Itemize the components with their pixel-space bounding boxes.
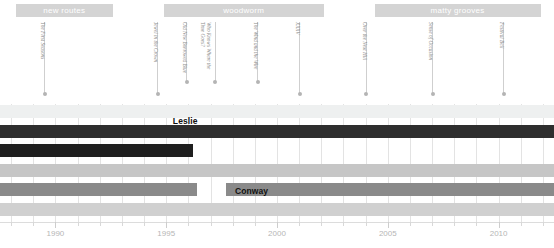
axis-tick-minor [366,222,367,226]
axis-tick-major [499,222,500,228]
annotation-label: Who Knows Where theTime Goes? [200,22,211,69]
annotation-dot [256,80,260,84]
annotation-label: Over the Next Hill [362,22,368,60]
axis-tick-minor [211,222,212,226]
axis-tick-major [55,222,56,228]
axis-tick-minor [543,222,544,226]
axis-tick-minor [233,222,234,226]
axis-tick-minor [432,222,433,226]
axis-tick-minor [343,222,344,226]
axis-tick-minor [33,222,34,226]
axis-year-label: 1990 [46,229,64,238]
timeline-bar[interactable] [0,144,193,157]
axis-tick-minor [255,222,256,226]
annotation-dot [431,92,435,96]
axis-tick-minor [410,222,411,226]
annotation-leader-line [215,22,216,82]
timeline-chart: new routeswoodwormmatty grooves The Firs… [0,0,554,248]
axis-tick-minor [299,222,300,226]
axis-tick-minor [122,222,123,226]
era-label: new routes [43,6,85,15]
annotation-label: The First Seasons [40,22,46,59]
axis-tick-minor [11,222,12,226]
annotation-label: Jewel in the Crown [153,22,159,62]
axis-tick-minor [188,222,189,226]
annotation-label: The Wind and the Wire [253,22,259,69]
axis-tick-minor [476,222,477,226]
timeline-bar-conway[interactable] [0,183,197,196]
axis-tick-major [388,222,389,228]
annotation-dot [156,92,160,96]
annotation-dot [213,80,217,84]
axis-year-label: 2000 [268,229,286,238]
annotation-label: Old New Borrowed Blue [182,22,188,73]
x-axis: 19901995200020052010 [0,222,554,248]
timeline-bar[interactable] [0,105,554,118]
axis-tick-minor [78,222,79,226]
bar-label: Conway [235,186,268,196]
annotation-label: Festival Bell [499,22,505,48]
axis-tick-major [166,222,167,228]
annotation-dot [364,92,368,96]
timeline-bar[interactable] [0,203,554,216]
annotation-dot [185,80,189,84]
axis-tick-minor [144,222,145,226]
era-bar[interactable]: new routes [16,4,114,17]
plot-area: LeslieConway [0,104,554,222]
era-bar[interactable]: woodworm [164,4,324,17]
timeline-bar-conway[interactable] [226,183,554,196]
timeline-bar[interactable] [0,164,554,177]
axis-tick-minor [321,222,322,226]
era-label: woodworm [223,6,264,15]
timeline-bar-leslie[interactable] [0,125,554,138]
axis-year-label: 1995 [157,229,175,238]
axis-year-label: 2010 [490,229,508,238]
axis-tick-minor [454,222,455,226]
bar-label: Leslie [173,116,198,126]
annotation-label: XXXV [295,22,301,35]
annotation-dot [43,92,47,96]
axis-tick-major [277,222,278,228]
axis-tick-minor [100,222,101,226]
annotation-dot [298,92,302,96]
era-label: matty grooves [431,6,485,15]
axis-tick-minor [521,222,522,226]
era-bar[interactable]: matty grooves [375,4,541,17]
axis-year-label: 2005 [379,229,397,238]
annotation-dot [502,92,506,96]
annotation-label: Sense of Occasion [428,22,434,60]
